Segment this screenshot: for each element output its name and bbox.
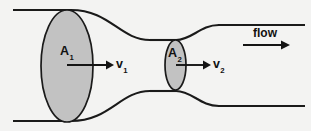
velocity-label-v1-text: v	[116, 57, 123, 71]
area-label-a2-subscript: 2	[177, 55, 182, 64]
velocity-label-v2-subscript: 2	[220, 66, 225, 75]
area-label-a2-text: A	[168, 46, 177, 60]
velocity-label-v1: v1	[116, 58, 128, 71]
area-label-a1: A1	[60, 45, 74, 58]
area-label-a2: A2	[168, 47, 182, 60]
pipe-flow-continuity-diagram: A1 A2 v1 v2 flow	[0, 0, 311, 131]
diagram-canvas	[0, 0, 311, 131]
area-label-a1-text: A	[60, 44, 69, 58]
velocity-arrow-v1-head	[106, 61, 114, 70]
velocity-label-v2-text: v	[213, 57, 220, 71]
area-label-a1-subscript: 1	[69, 53, 74, 62]
pipe-wall-bottom-diverging	[176, 91, 219, 106]
flow-direction-arrow-head	[281, 41, 290, 50]
velocity-arrow-v2-head	[203, 61, 211, 70]
cross-section-disc-a1	[41, 10, 93, 122]
pipe-wall-top-diverging	[176, 25, 219, 40]
flow-label: flow	[253, 27, 277, 39]
velocity-label-v2: v2	[213, 58, 225, 71]
velocity-label-v1-subscript: 1	[123, 66, 128, 75]
